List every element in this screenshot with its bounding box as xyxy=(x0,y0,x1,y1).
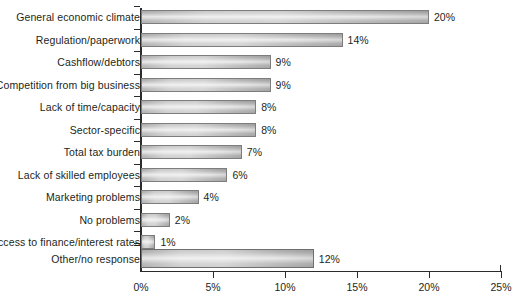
category-label: General economic climate xyxy=(16,10,140,24)
y-axis-tick xyxy=(134,51,140,52)
bar xyxy=(141,33,343,47)
horizontal-bar-chart: General economic climateRegulation/paper… xyxy=(0,0,526,307)
bar xyxy=(141,249,314,268)
bar xyxy=(141,190,199,204)
category-label: No problems xyxy=(79,213,140,227)
category-label: Total tax burden xyxy=(64,145,140,159)
category-label: Marketing problems xyxy=(46,190,140,204)
category-label: Competition from big business xyxy=(0,78,140,92)
x-axis-tick-label: 15% xyxy=(346,281,367,293)
bar xyxy=(141,123,256,137)
bar-value-label: 1% xyxy=(160,235,175,249)
bar-value-label: 2% xyxy=(175,213,190,227)
y-axis-tick xyxy=(134,29,140,30)
bar-value-label: 6% xyxy=(232,168,247,182)
y-axis-tick xyxy=(134,164,140,165)
bar xyxy=(141,213,170,227)
x-axis-tick-label: 25% xyxy=(490,281,511,293)
x-axis-tick xyxy=(213,272,214,278)
bar-value-label: 14% xyxy=(348,33,369,47)
x-axis-tick xyxy=(285,272,286,278)
bar-value-label: 20% xyxy=(434,10,455,24)
y-axis-line xyxy=(140,8,142,272)
category-label: Cashflow/debtors xyxy=(57,55,140,69)
bar xyxy=(141,100,256,114)
bar xyxy=(141,78,271,92)
x-axis-tick-label: 0% xyxy=(133,281,148,293)
bar-value-label: 12% xyxy=(319,252,340,266)
category-label: Other/no response xyxy=(51,252,140,266)
category-label: Access to finance/interest rates xyxy=(0,235,140,249)
bar xyxy=(141,168,227,182)
y-axis-tick xyxy=(134,141,140,142)
y-axis-tick xyxy=(134,186,140,187)
category-label: Lack of skilled employees xyxy=(18,168,140,182)
x-axis-tick xyxy=(429,272,430,278)
bar-value-label: 7% xyxy=(247,145,262,159)
y-axis-tick xyxy=(134,209,140,210)
x-axis-tick-label: 20% xyxy=(418,281,439,293)
bar-value-label: 8% xyxy=(261,123,276,137)
y-axis-tick xyxy=(134,119,140,120)
category-label: Lack of time/capacity xyxy=(40,100,140,114)
category-label: Regulation/paperwork xyxy=(36,33,140,47)
y-axis-tick xyxy=(134,231,140,232)
bar-value-label: 9% xyxy=(276,78,291,92)
bar xyxy=(141,145,242,159)
y-axis-tick xyxy=(134,74,140,75)
y-axis-tick xyxy=(134,6,140,7)
x-axis-tick xyxy=(357,272,358,278)
x-axis-tick-label: 10% xyxy=(274,281,295,293)
bar-value-label: 9% xyxy=(276,55,291,69)
x-axis-tick-label: 5% xyxy=(205,281,220,293)
y-axis-tick xyxy=(134,96,140,97)
x-axis-line xyxy=(140,271,502,272)
bar xyxy=(141,55,271,69)
bar-value-label: 8% xyxy=(261,100,276,114)
bar xyxy=(141,235,155,249)
category-label: Sector-specific xyxy=(70,123,140,137)
bar-value-label: 4% xyxy=(204,190,219,204)
plot-area: General economic climateRegulation/paper… xyxy=(0,0,526,307)
x-axis-end-cap xyxy=(500,265,501,272)
x-axis-tick xyxy=(501,272,502,278)
bar xyxy=(141,10,429,24)
